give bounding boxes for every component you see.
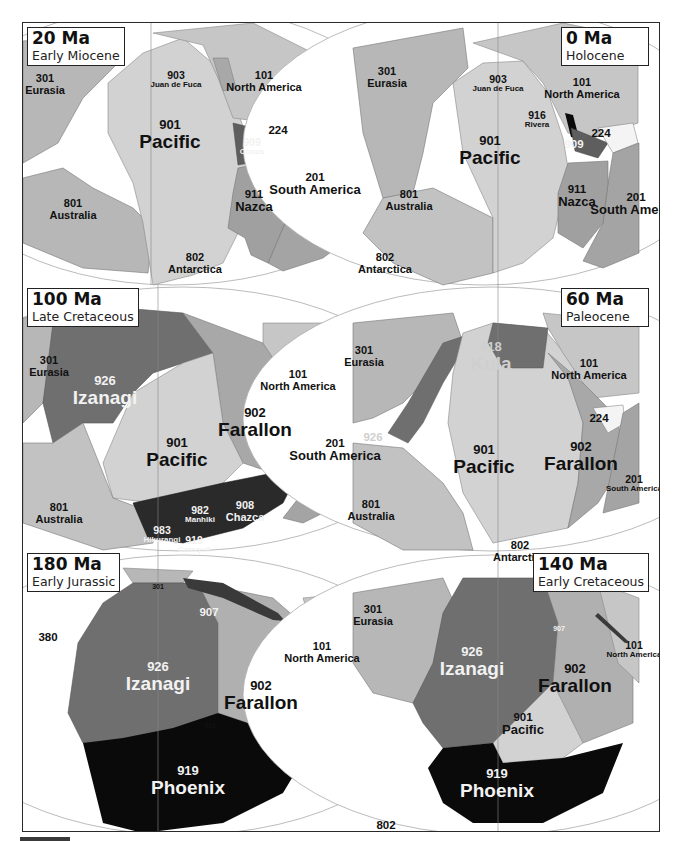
plate-name: Izanagi <box>440 659 504 679</box>
plate-label: 902Farallon <box>538 662 612 696</box>
plate-name: Pacific <box>502 723 544 737</box>
plate-id: 902 <box>538 662 612 676</box>
epoch-label: Early Cretaceous <box>538 574 644 589</box>
plate-id: 901 <box>204 722 216 729</box>
plate-label: 926Izanagi <box>126 660 190 694</box>
plate-reconstruction-figure: 20 Ma Early Miocene 301Eurasia903Juan de… <box>22 22 660 832</box>
panel-180ma: 180 Ma Early Jurassic 301907380101North … <box>23 23 342 832</box>
age-label: 140 Ma <box>538 555 644 574</box>
plate-label: 802 <box>376 819 395 831</box>
age-label: 180 Ma <box>32 555 115 574</box>
plate-label: 902Farallon <box>224 679 298 713</box>
plate-id: 926 <box>126 660 190 674</box>
plate-name: Phoenix <box>460 781 534 801</box>
plate-name: Farallon <box>538 676 612 696</box>
plate-label: 901 <box>204 722 216 729</box>
panel-140ma: 140 Ma Early Cretaceous 301Eurasia907101… <box>342 23 660 832</box>
plate-id: 919 <box>151 764 225 778</box>
plate-id: 380 <box>38 631 57 643</box>
scale-bar <box>20 837 70 841</box>
plate-label: 301 <box>152 583 164 590</box>
age-box: 180 Ma Early Jurassic <box>27 553 120 592</box>
plate-label: 901Pacific <box>502 711 544 737</box>
plate-label: 301Eurasia <box>353 604 393 627</box>
epoch-label: Early Jurassic <box>32 574 115 589</box>
plate-id: 902 <box>224 679 298 693</box>
plate-id: 907 <box>553 625 565 632</box>
plate-label: 919Phoenix <box>460 767 534 801</box>
plate-id: 907 <box>199 606 218 618</box>
plate-id: 919 <box>460 767 534 781</box>
plate-name: North America <box>607 651 660 659</box>
plate-label: 101North America <box>607 640 660 659</box>
plate-name: Phoenix <box>151 778 225 798</box>
plate-name: Eurasia <box>353 616 393 628</box>
plate-label: 907 <box>199 606 218 618</box>
plate-id: 802 <box>376 819 395 831</box>
plate-name: Izanagi <box>126 674 190 694</box>
plate-label: 926Izanagi <box>440 645 504 679</box>
plate-id: 301 <box>353 604 393 616</box>
plate-name: Farallon <box>224 693 298 713</box>
plate-label: 919Phoenix <box>151 764 225 798</box>
age-box: 140 Ma Early Cretaceous <box>533 553 649 592</box>
plate-id: 926 <box>440 645 504 659</box>
plate-label: 380 <box>38 631 57 643</box>
plate-id: 301 <box>152 583 164 590</box>
plate-label: 907 <box>553 625 565 632</box>
